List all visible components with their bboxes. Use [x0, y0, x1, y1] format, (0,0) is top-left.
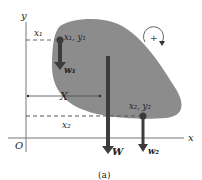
- centroid-diagram: y x O x₁ x₂ X x₁, y₁ x₂, y₂ w₁ W w₂ (a) …: [0, 0, 202, 180]
- w2-label: w₂: [148, 146, 159, 156]
- figure-caption: (a): [98, 170, 110, 180]
- w1-label: w₁: [64, 65, 76, 75]
- W-label: W: [112, 146, 125, 157]
- y-axis-label: y: [20, 10, 27, 21]
- X-label: X: [59, 90, 69, 103]
- x-axis-label: x: [188, 132, 194, 143]
- x2-label: x₂: [62, 120, 71, 130]
- point-1-label: x₁, y₁: [64, 32, 86, 42]
- point-2-label: x₂, y₂: [129, 101, 151, 111]
- origin-label: O: [15, 140, 23, 151]
- x1-label: x₁: [34, 28, 43, 38]
- diagram-canvas: y x O x₁ x₂ X x₁, y₁ x₂, y₂ w₁ W w₂ (a) …: [0, 0, 202, 180]
- rotation-sign: +: [150, 33, 158, 43]
